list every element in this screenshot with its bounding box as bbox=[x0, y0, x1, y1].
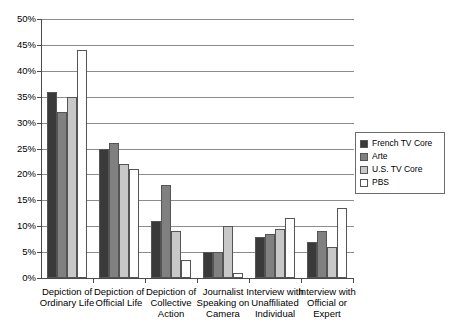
legend-item[interactable]: U.S. TV Core bbox=[360, 163, 441, 176]
bar[interactable] bbox=[99, 149, 109, 279]
bar[interactable] bbox=[161, 185, 171, 278]
y-axis-tick-label: 45% bbox=[0, 40, 36, 50]
y-axis-tick-label: 5% bbox=[0, 247, 36, 257]
y-axis-tick-label: 35% bbox=[0, 92, 36, 102]
y-axis-tick-label: 50% bbox=[0, 14, 36, 24]
y-axis-tick-label: 0% bbox=[0, 273, 36, 283]
legend-swatch-icon bbox=[360, 140, 368, 148]
bar[interactable] bbox=[317, 231, 327, 278]
legend-label: French TV Core bbox=[372, 139, 432, 148]
bar[interactable] bbox=[119, 164, 129, 278]
bar[interactable] bbox=[151, 221, 161, 278]
y-axis-tick-label: 10% bbox=[0, 221, 36, 231]
legend-label: Arte bbox=[372, 152, 388, 161]
bar[interactable] bbox=[337, 208, 347, 278]
bar[interactable] bbox=[77, 50, 87, 278]
y-axis-tick-label: 40% bbox=[0, 66, 36, 76]
chart-legend: French TV CoreArteU.S. TV CorePBS bbox=[355, 132, 445, 194]
x-axis-tick-mark bbox=[197, 278, 198, 283]
x-axis-tick-mark bbox=[301, 278, 302, 283]
bar[interactable] bbox=[233, 273, 243, 278]
bar[interactable] bbox=[275, 229, 285, 278]
y-axis-tick-label: 30% bbox=[0, 118, 36, 128]
y-axis-tick-label: 15% bbox=[0, 195, 36, 205]
bar[interactable] bbox=[223, 226, 233, 278]
bar-group bbox=[41, 19, 93, 278]
legend-label: PBS bbox=[372, 178, 389, 187]
x-axis-tick-mark bbox=[93, 278, 94, 283]
bar-group bbox=[145, 19, 197, 278]
legend-item[interactable]: French TV Core bbox=[360, 137, 441, 150]
bar[interactable] bbox=[327, 247, 337, 278]
y-axis-tick-label: 20% bbox=[0, 169, 36, 179]
bar[interactable] bbox=[181, 260, 191, 278]
y-axis-tick-label: 25% bbox=[0, 144, 36, 154]
legend-label: U.S. TV Core bbox=[372, 165, 422, 174]
x-axis-tick-mark bbox=[249, 278, 250, 283]
bar-group bbox=[197, 19, 249, 278]
legend-swatch-icon bbox=[360, 153, 368, 161]
bar[interactable] bbox=[265, 234, 275, 278]
legend-item[interactable]: Arte bbox=[360, 150, 441, 163]
bar[interactable] bbox=[129, 169, 139, 278]
legend-swatch-icon bbox=[360, 166, 368, 174]
bar[interactable] bbox=[285, 218, 295, 278]
bar[interactable] bbox=[47, 92, 57, 278]
bar-chart: 50%45%40%35%30%25%20%15%10%5%0% Depictio… bbox=[0, 0, 449, 327]
x-axis-tick-mark bbox=[145, 278, 146, 283]
bar[interactable] bbox=[57, 112, 67, 278]
bar[interactable] bbox=[109, 143, 119, 278]
bar[interactable] bbox=[171, 231, 181, 278]
bar[interactable] bbox=[255, 237, 265, 278]
bar[interactable] bbox=[203, 252, 213, 278]
bar[interactable] bbox=[67, 97, 77, 278]
bar[interactable] bbox=[307, 242, 317, 278]
bar[interactable] bbox=[213, 252, 223, 278]
legend-swatch-icon bbox=[360, 179, 368, 187]
bar-group bbox=[301, 19, 353, 278]
legend-item[interactable]: PBS bbox=[360, 176, 441, 189]
bars-layer bbox=[41, 19, 353, 278]
x-axis-tick-mark bbox=[353, 278, 354, 283]
bar-group bbox=[93, 19, 145, 278]
bar-group bbox=[249, 19, 301, 278]
x-axis-category-label: Interview withOfficial orExpert bbox=[294, 286, 360, 319]
